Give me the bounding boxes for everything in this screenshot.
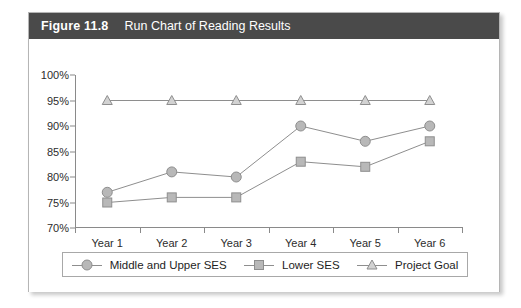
legend-label: Project Goal (395, 259, 458, 271)
x-tick-label: Year 4 (285, 237, 316, 249)
circle-data-marker (360, 136, 370, 146)
chart-plot-area: 100%95%90%85%80%75%70% Year 1Year 2Year … (75, 75, 462, 228)
x-tick-label: Year 6 (414, 237, 445, 249)
figure-title: Run Chart of Reading Results (125, 19, 291, 33)
x-tick-label: Year 2 (156, 237, 187, 249)
y-tick-label: 70% (47, 222, 69, 234)
y-tick-label: 95% (47, 95, 69, 107)
legend-label: Middle and Upper SES (110, 259, 227, 271)
legend-entry[interactable]: Lower SES (244, 258, 340, 272)
triangle-data-marker (367, 260, 377, 269)
y-tick-label: 100% (41, 69, 69, 81)
x-tick-mark (398, 228, 399, 233)
chart-legend: Middle and Upper SESLower SESProject Goa… (62, 252, 468, 277)
x-tick-mark (204, 228, 205, 233)
square-data-marker (296, 157, 305, 166)
square-data-marker (232, 193, 241, 202)
square-data-marker (103, 198, 112, 207)
circle-data-marker (167, 167, 177, 177)
circle-data-marker (82, 260, 92, 270)
y-tick-label: 85% (47, 146, 69, 158)
series-group (103, 137, 435, 207)
circle-data-marker (425, 121, 435, 131)
series-line (107, 126, 430, 192)
x-tick-mark (269, 228, 270, 233)
square-marker-icon (244, 258, 274, 272)
circle-data-marker (231, 172, 241, 182)
x-tick-label: Year 1 (92, 237, 123, 249)
circle-data-marker (296, 121, 306, 131)
legend-label: Lower SES (282, 259, 340, 271)
series-group (102, 96, 435, 105)
y-tick-label: 80% (47, 171, 69, 183)
y-tick-label: 75% (47, 197, 69, 209)
x-tick-mark (333, 228, 334, 233)
square-data-marker (255, 260, 264, 269)
figure-header: Figure 11.8 Run Chart of Reading Results (29, 13, 499, 39)
square-data-marker (361, 162, 370, 171)
figure-number: Figure 11.8 (41, 19, 109, 33)
figure-body: 100%95%90%85%80%75%70% Year 1Year 2Year … (29, 39, 499, 292)
x-tick-label: Year 3 (221, 237, 252, 249)
chart-series-layer (75, 75, 462, 228)
series-line (107, 141, 430, 202)
figure-container: Figure 11.8 Run Chart of Reading Results… (28, 12, 500, 292)
x-tick-label: Year 5 (350, 237, 381, 249)
x-tick-mark (140, 228, 141, 233)
square-data-marker (425, 137, 434, 146)
x-tick-mark (462, 228, 463, 233)
x-tick-mark (75, 228, 76, 233)
y-tick-label: 90% (47, 120, 69, 132)
circle-data-marker (102, 187, 112, 197)
legend-entry[interactable]: Project Goal (357, 258, 458, 272)
circle-marker-icon (72, 258, 102, 272)
square-data-marker (167, 193, 176, 202)
triangle-marker-icon (357, 258, 387, 272)
legend-entry[interactable]: Middle and Upper SES (72, 258, 227, 272)
